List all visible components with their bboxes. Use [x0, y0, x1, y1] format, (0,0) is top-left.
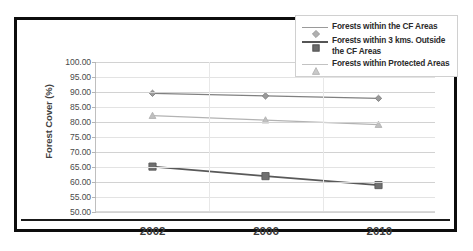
series-triangle: [149, 112, 382, 127]
y-tick-mark: [92, 62, 96, 63]
chart-frame: Forest Cover (%) 100.0095.0090.0085.0080…: [14, 17, 457, 232]
chart-legend: Forests within the CF Areas Forests with…: [295, 15, 458, 77]
x-tick-label: 2006: [253, 225, 279, 237]
y-tick-mark: [92, 167, 96, 168]
gridline: [96, 152, 435, 153]
x-tick-label: 2010: [367, 225, 393, 237]
y-tick-label: 60.00: [70, 177, 91, 187]
y-axis-title: Forest Cover (%): [43, 67, 54, 177]
y-tick-label: 90.00: [70, 87, 91, 97]
gridline: [96, 107, 435, 108]
y-tick-label: 85.00: [70, 102, 91, 112]
gridline: [96, 92, 435, 93]
y-tick-mark: [92, 137, 96, 138]
y-tick-mark: [92, 107, 96, 108]
y-tick-label: 50.00: [70, 207, 91, 217]
x-axis-rule: [21, 219, 450, 221]
legend-item[interactable]: Forests within 3 kms. Outside the CF Are…: [298, 34, 455, 57]
category-separator: [323, 62, 324, 211]
gridline: [96, 77, 435, 78]
category-separator: [209, 62, 210, 211]
y-tick-label: 65.00: [70, 162, 91, 172]
x-tick-label: 2002: [140, 225, 166, 237]
gridline: [96, 182, 435, 183]
y-tick-mark: [92, 212, 96, 213]
gridline: [96, 167, 435, 168]
legend-swatch-square-icon: [302, 36, 328, 47]
gridline: [96, 212, 435, 213]
plot-area: 100.0095.0090.0085.0080.0075.0070.0065.0…: [95, 62, 435, 212]
y-tick-mark: [92, 122, 96, 123]
y-tick-label: 75.00: [70, 132, 91, 142]
y-tick-mark: [92, 152, 96, 153]
legend-swatch-triangle-icon: [302, 59, 328, 70]
y-tick-mark: [92, 197, 96, 198]
gridline: [96, 197, 435, 198]
gridline: [96, 122, 435, 123]
y-tick-label: 70.00: [70, 147, 91, 157]
legend-label: Forests within the CF Areas: [332, 21, 437, 32]
y-tick-label: 95.00: [70, 72, 91, 82]
y-tick-mark: [92, 182, 96, 183]
y-tick-mark: [92, 77, 96, 78]
gridline: [96, 137, 435, 138]
figure-canvas: Forest Cover (%) 100.0095.0090.0085.0080…: [0, 0, 473, 251]
legend-swatch-diamond-icon: [302, 22, 328, 33]
plot-wrapper: Forest Cover (%) 100.0095.0090.0085.0080…: [17, 20, 454, 229]
legend-item[interactable]: Forests within the CF Areas: [298, 20, 455, 34]
legend-label: Forests within 3 kms. Outside the CF Are…: [332, 35, 455, 56]
y-tick-label: 80.00: [70, 117, 91, 127]
y-tick-label: 100.00: [65, 57, 91, 67]
y-tick-label: 55.00: [70, 192, 91, 202]
legend-item[interactable]: Forests within Protected Areas: [298, 57, 455, 71]
y-tick-mark: [92, 92, 96, 93]
legend-label: Forests within Protected Areas: [332, 58, 449, 69]
